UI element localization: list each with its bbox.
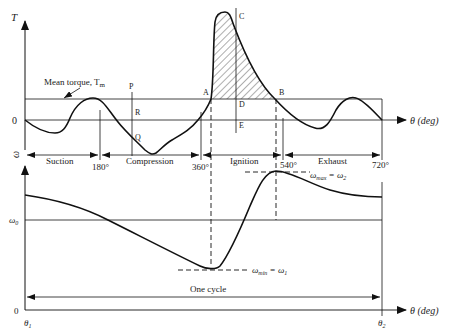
omega-min-label: ωmin = ω1 xyxy=(252,265,287,276)
omega0-label: ω0 xyxy=(9,215,18,226)
tick-label-180: 180° xyxy=(92,162,110,172)
stroke-ignition-label: Ignition xyxy=(230,156,259,166)
stroke-exhaust-label: Exhaust xyxy=(318,156,347,166)
stroke-compression-label: Compression xyxy=(126,156,174,166)
tick-label-360: 360° xyxy=(192,162,210,172)
tick-label-720: 720° xyxy=(372,160,390,170)
excess-energy-hatched-area xyxy=(205,5,285,105)
point-B-label: B xyxy=(279,88,284,97)
torque-plot: T 0 θ (deg) Mean torque, Tm P R Q C D E … xyxy=(10,5,439,172)
point-C-label: C xyxy=(239,12,244,21)
torque-y-axis-label: T xyxy=(11,11,18,23)
speed-zero-label: 0 xyxy=(14,306,19,316)
speed-x-axis-label: θ (deg) xyxy=(410,305,439,317)
torque-x-axis-label: θ (deg) xyxy=(410,115,439,127)
point-E-label: E xyxy=(239,121,244,130)
theta1-label: θ1 xyxy=(24,318,31,329)
speed-plot: ω0 ωmin = ω1 ωmax = ω2 One cycle θ (deg)… xyxy=(9,166,439,329)
point-P-label: P xyxy=(129,82,134,91)
diagram-canvas: T 0 θ (deg) Mean torque, Tm P R Q C D E … xyxy=(0,0,453,336)
torque-zero-label: 0 xyxy=(12,115,17,126)
one-cycle-label: One cycle xyxy=(190,284,226,294)
mean-torque-label: Mean torque, Tm xyxy=(44,77,106,89)
theta2-label: θ2 xyxy=(378,318,385,329)
point-D-label: D xyxy=(239,100,245,109)
omega-max-label: ωmax = ω2 xyxy=(310,170,346,181)
point-A-label: A xyxy=(203,88,209,97)
point-R-label: R xyxy=(135,108,141,117)
stroke-row-omega-label: ω xyxy=(10,151,21,158)
point-Q-label: Q xyxy=(135,133,141,142)
stroke-suction-label: Suction xyxy=(46,156,74,166)
tick-label-540: 540° xyxy=(280,160,298,170)
mean-torque-pointer xyxy=(64,88,80,98)
